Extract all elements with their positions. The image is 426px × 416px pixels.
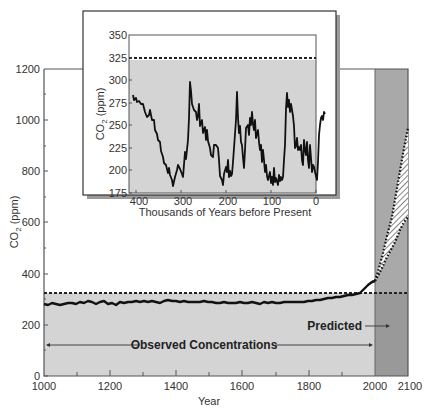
inset-x-axis-title: Thousands of Years before Present xyxy=(139,206,311,218)
y-tick-1200: 1200 xyxy=(16,63,40,75)
y-tick-800: 800 xyxy=(22,165,40,177)
y-tick-400: 400 xyxy=(22,268,40,280)
x-tick-1200: 1200 xyxy=(98,380,122,392)
inset-y-tick-300: 300 xyxy=(109,74,127,86)
inset-y-tick-250: 250 xyxy=(109,119,127,131)
inset-x-tick-0: 0 xyxy=(313,195,319,207)
inset-chart: 175 200 225 250 275 300 325 350 400 300 … xyxy=(83,11,340,218)
inset-y-tick-175: 175 xyxy=(109,187,127,199)
x-tick-2000: 2000 xyxy=(363,380,387,392)
observed-region xyxy=(44,293,375,376)
inset-y-tick-275: 275 xyxy=(109,97,127,109)
x-tick-1800: 1800 xyxy=(297,380,321,392)
x-tick-1400: 1400 xyxy=(164,380,188,392)
inset-y-tick-325: 325 xyxy=(109,52,127,64)
inset-y-tick-350: 350 xyxy=(109,29,127,41)
observed-label: Observed Concentrations xyxy=(131,338,278,352)
x-tick-2100: 2100 xyxy=(398,380,422,392)
inset-y-tick-200: 200 xyxy=(109,164,127,176)
predicted-label: Predicted xyxy=(307,319,362,333)
co2-chart: 0 200 400 600 800 1000 1200 1000 1200 14… xyxy=(0,0,426,416)
inset-y-tick-225: 225 xyxy=(109,142,127,154)
x-tick-1000: 1000 xyxy=(32,380,56,392)
x-axis-title: Year xyxy=(198,395,221,407)
y-tick-200: 200 xyxy=(22,319,40,331)
y-tick-600: 600 xyxy=(22,216,40,228)
y-tick-1000: 1000 xyxy=(16,114,40,126)
x-tick-1600: 1600 xyxy=(230,380,254,392)
